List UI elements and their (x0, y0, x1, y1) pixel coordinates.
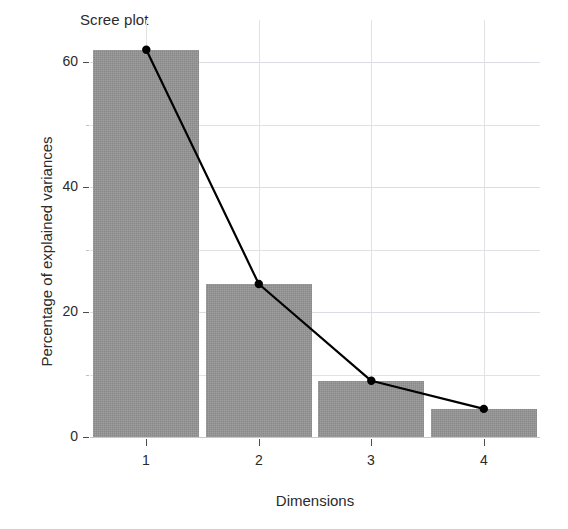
y-tick-mark (83, 312, 89, 313)
x-tick-mark (484, 439, 485, 446)
axis-baseline (90, 437, 540, 438)
x-tick-label-3: 3 (341, 452, 401, 468)
y-tick-mark-minor (86, 250, 89, 251)
y-tick-mark (83, 437, 89, 438)
y-tick-label: 40 (20, 178, 78, 194)
y-tick-mark (83, 62, 89, 63)
y-tick-label: 60 (20, 53, 78, 69)
x-axis-title-wrap: Dimensions (0, 492, 568, 509)
y-axis-title: Percentage of explained variances (38, 92, 55, 412)
scree-plot-figure: Scree plot Percentage of explained varia… (0, 0, 568, 529)
x-tick-mark (371, 439, 372, 446)
gridline-vertical (484, 20, 485, 438)
x-tick-mark (146, 439, 147, 446)
x-tick-label-2: 2 (229, 452, 289, 468)
y-tick-label: 0 (20, 428, 78, 444)
bar-dimension-2 (206, 284, 312, 437)
x-tick-label-4: 4 (454, 452, 514, 468)
y-tick-mark (83, 187, 89, 188)
x-axis-title: Dimensions (276, 492, 354, 509)
plot-panel (90, 20, 540, 438)
x-tick-label-1: 1 (116, 452, 176, 468)
bar-dimension-1 (93, 50, 199, 437)
y-tick-mark-minor (86, 375, 89, 376)
bar-dimension-3 (318, 381, 424, 437)
y-tick-mark-minor (86, 125, 89, 126)
bar-dimension-4 (431, 409, 537, 437)
x-tick-mark (259, 439, 260, 446)
y-tick-label: 20 (20, 303, 78, 319)
gridline-vertical (371, 20, 372, 438)
